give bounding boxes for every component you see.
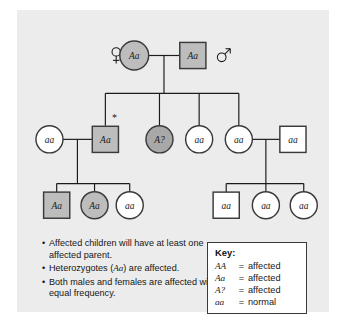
generation-3: Aa Aa aa aa aa aa (44, 192, 318, 219)
key-row: A? = affected (215, 284, 300, 296)
bullet-glyph: • (42, 263, 49, 275)
male-symbol (217, 49, 230, 62)
individual-II-5[interactable]: aa (225, 126, 252, 153)
individual-II-2[interactable]: Aa (92, 126, 118, 152)
proband-asterisk-marker: * (112, 112, 117, 123)
genotype-label-III-4: aa (221, 201, 231, 211)
individual-II-6[interactable]: aa (280, 126, 306, 152)
key-genotype: A? (215, 284, 235, 296)
genotype-label-II-3: A? (153, 135, 165, 145)
note-item: • Both males and females are affected wi… (42, 277, 222, 300)
individual-III-1[interactable]: Aa (44, 192, 70, 218)
key-equals-sign: = (235, 272, 248, 284)
genotype-label-II-4: aa (194, 135, 204, 145)
individual-II-1[interactable]: aa (36, 126, 63, 153)
individual-II-3[interactable]: A? (146, 126, 173, 153)
genotype-label-III-5: aa (261, 201, 271, 211)
individual-III-2[interactable]: Aa (81, 192, 108, 219)
key-phenotype: affected (248, 260, 300, 272)
individual-III-6[interactable]: aa (290, 192, 317, 219)
genotype-label-III-6: aa (299, 201, 309, 211)
genotype-label-I-2: Aa (187, 51, 199, 61)
bullet-glyph: • (42, 277, 49, 289)
note-item: • Heterozygotes (Aa) are affected. (42, 263, 222, 275)
key-genotype: aa (215, 296, 235, 308)
genotype-label-II-1: aa (45, 135, 55, 145)
note-text: Affected children will have at least one… (49, 238, 222, 261)
genotype-label-III-1: Aa (50, 201, 62, 211)
individual-III-3[interactable]: aa (116, 192, 143, 219)
key-row: aa = normal (215, 296, 300, 308)
note-item: • Affected children will have at least o… (42, 238, 222, 261)
genotype-label-II-2: Aa (99, 135, 111, 145)
key-genotype: Aa (215, 272, 235, 284)
key-row: Aa = affected (215, 272, 300, 284)
genotype-label-II-5: aa (234, 135, 244, 145)
pedigree-figure: Aa Aa aa Aa * A? aa (17, 10, 329, 312)
note-text: Heterozygotes (Aa) are affected. (49, 263, 222, 275)
individual-III-5[interactable]: aa (252, 192, 279, 219)
key-genotype: AA (215, 260, 235, 272)
key-equals-sign: = (235, 296, 248, 308)
individual-I-2[interactable]: Aa (180, 42, 206, 68)
genotype-label-III-2: Aa (88, 201, 100, 211)
individual-III-4[interactable]: aa (213, 192, 239, 218)
key-equals-sign: = (235, 284, 248, 296)
key-title: Key: (215, 247, 300, 258)
key-row: AA = affected (215, 260, 300, 272)
key-phenotype: normal (248, 296, 300, 308)
pedigree-connector-lines (57, 55, 304, 192)
genotype-label-III-3: aa (125, 201, 135, 211)
key-phenotype: affected (248, 284, 300, 296)
note-text: Both males and females are affected with… (49, 277, 222, 300)
individual-I-1[interactable]: Aa (120, 41, 149, 70)
individual-II-4[interactable]: aa (186, 126, 213, 153)
key-phenotype: affected (248, 272, 300, 284)
key-equals-sign: = (235, 260, 248, 272)
key-legend-box: Key: AA = affected Aa = affected A? = af… (207, 242, 307, 314)
genotype-label-II-6: aa (288, 135, 298, 145)
notes-list: • Affected children will have at least o… (42, 238, 222, 302)
bullet-glyph: • (42, 238, 49, 250)
genotype-label-I-1: Aa (128, 51, 140, 61)
